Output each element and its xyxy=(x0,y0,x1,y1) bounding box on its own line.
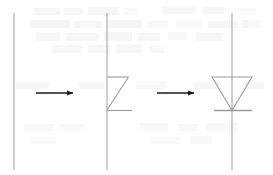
stage-2-triangle-hypotenuse xyxy=(107,77,129,110)
paper-bleed-through-artifact xyxy=(16,6,264,144)
figure-canvas xyxy=(0,0,273,175)
diode-symbol-construction-figure: 1 2 3 xyxy=(0,0,273,175)
